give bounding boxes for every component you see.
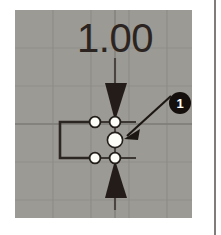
node-top-right[interactable] — [110, 117, 121, 128]
callout-badge-number: 1 — [176, 96, 183, 111]
node-bottom-right[interactable] — [110, 153, 121, 164]
figure-container: 1.00 1 — [0, 0, 221, 235]
node-bottom-left[interactable] — [90, 153, 101, 164]
node-top-left[interactable] — [90, 117, 101, 128]
dimension-value-label[interactable]: 1.00 — [77, 16, 153, 60]
callout-badge-1[interactable]: 1 — [169, 92, 191, 114]
sketch-canvas-svg: 1.00 1 — [0, 0, 221, 235]
node-center-selected[interactable] — [107, 132, 122, 147]
